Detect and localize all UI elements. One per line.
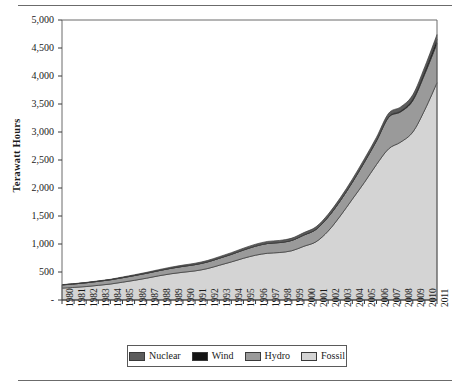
x-tick-label: 1997 bbox=[272, 288, 282, 307]
x-tick-label: 2006 bbox=[381, 288, 391, 307]
legend-item-hydro: Hydro bbox=[245, 351, 291, 361]
chart-area: Terawatt Hours -5001,0001,5002,0002,5003… bbox=[0, 0, 470, 340]
legend-swatch-hydro bbox=[245, 352, 261, 361]
x-tick-label: 1993 bbox=[223, 288, 233, 307]
x-tick-label: 2011 bbox=[441, 289, 451, 307]
x-tick-label: 1981 bbox=[78, 288, 88, 307]
x-tick-label: 1982 bbox=[90, 288, 100, 307]
legend-swatch-wind bbox=[192, 352, 208, 361]
x-tick-label: 1986 bbox=[139, 288, 149, 307]
x-tick-label: 1994 bbox=[235, 288, 245, 307]
bottom-divider-rule bbox=[18, 380, 452, 381]
x-tick-label: 1995 bbox=[247, 288, 257, 307]
x-tick-label: 1992 bbox=[211, 288, 221, 307]
x-tick-label: 2008 bbox=[405, 288, 415, 307]
x-tick-label: 2003 bbox=[344, 288, 354, 307]
x-axis-tick-labels: 1980198119821983198419851986198719881989… bbox=[0, 0, 470, 340]
legend-swatch-nuclear bbox=[129, 352, 145, 361]
x-tick-label: 2005 bbox=[368, 288, 378, 307]
x-tick-label: 1996 bbox=[260, 288, 270, 307]
x-tick-label: 1989 bbox=[175, 288, 185, 307]
legend-item-fossil: Fossil bbox=[301, 351, 345, 361]
x-tick-label: 1990 bbox=[187, 288, 197, 307]
legend-item-wind: Wind bbox=[192, 351, 234, 361]
x-tick-label: 1984 bbox=[114, 288, 124, 307]
chart-legend: NuclearWindHydroFossil bbox=[127, 345, 347, 367]
x-tick-label: 1985 bbox=[126, 288, 136, 307]
legend-swatch-fossil bbox=[301, 352, 317, 361]
x-tick-label: 2004 bbox=[356, 288, 366, 307]
legend-label: Fossil bbox=[321, 351, 345, 361]
x-tick-label: 1998 bbox=[284, 288, 294, 307]
x-tick-label: 2007 bbox=[393, 288, 403, 307]
x-tick-label: 2009 bbox=[417, 288, 427, 307]
legend-label: Wind bbox=[212, 351, 234, 361]
x-tick-label: 1991 bbox=[199, 288, 209, 307]
x-tick-label: 2002 bbox=[332, 288, 342, 307]
x-tick-label: 1988 bbox=[163, 288, 173, 307]
legend-item-nuclear: Nuclear bbox=[129, 351, 181, 361]
x-tick-label: 2001 bbox=[320, 288, 330, 307]
x-tick-label: 1999 bbox=[296, 288, 306, 307]
legend-label: Nuclear bbox=[149, 351, 181, 361]
x-tick-label: 2000 bbox=[308, 288, 318, 307]
x-tick-label: 1980 bbox=[66, 288, 76, 307]
x-tick-label: 2010 bbox=[429, 288, 439, 307]
x-tick-label: 1987 bbox=[151, 288, 161, 307]
legend-label: Hydro bbox=[265, 351, 291, 361]
figure: Terawatt Hours -5001,0001,5002,0002,5003… bbox=[0, 0, 470, 392]
x-tick-label: 1983 bbox=[102, 288, 112, 307]
